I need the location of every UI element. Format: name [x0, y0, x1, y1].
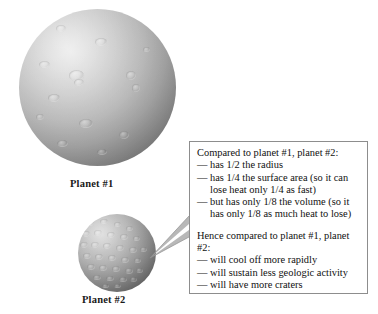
crater — [79, 119, 93, 128]
crater — [99, 265, 107, 271]
crater — [108, 255, 116, 261]
planet-2-crater-layer — [78, 214, 156, 292]
planet-2-label: Planet #2 — [82, 294, 126, 305]
crater — [93, 275, 101, 280]
crater — [87, 264, 95, 270]
crater — [114, 284, 121, 288]
planet-1-sphere — [19, 9, 176, 166]
crater — [87, 221, 94, 226]
callout-paragraph-2: Hence compared to planet #1, planet #2: … — [197, 230, 361, 291]
crater — [126, 71, 136, 80]
crater — [126, 226, 133, 231]
planet-1-crater-layer — [19, 9, 176, 166]
crater — [129, 247, 137, 253]
crater — [134, 258, 141, 263]
crater — [114, 222, 121, 227]
crater — [100, 219, 108, 224]
crater — [120, 234, 128, 240]
crater — [136, 268, 143, 273]
crater — [94, 230, 102, 236]
callout-bullet: — but has only 1/8 the volume (so it has… — [197, 196, 361, 221]
crater — [95, 38, 107, 46]
crater — [103, 243, 111, 249]
crater — [56, 25, 66, 32]
crater — [133, 236, 140, 241]
crater — [91, 242, 99, 248]
crater — [48, 94, 60, 102]
callout-box: Compared to planet #1, planet #2: — has … — [189, 141, 368, 294]
crater — [95, 254, 103, 260]
callout-paragraph-1: Compared to planet #1, planet #2: — has … — [197, 147, 361, 221]
crater — [119, 131, 129, 139]
callout-bullet: — has 1/4 the surface area (so it can lo… — [197, 172, 361, 197]
crater — [130, 277, 137, 282]
crater — [121, 257, 129, 263]
crater — [119, 277, 127, 282]
callout-bullet: — will cool off more rapidly — [197, 254, 361, 266]
callout-bullet: — will have more craters — [197, 279, 361, 291]
crater — [36, 114, 44, 120]
crater — [69, 70, 84, 81]
planet-1-label: Planet #1 — [70, 178, 114, 189]
crater — [125, 268, 133, 274]
callout-bullet: — will sustain less geologic activity — [197, 267, 361, 279]
figure-canvas: Planet #1 Planet #2 Compared to planet #… — [0, 0, 378, 314]
crater — [116, 245, 124, 251]
crater — [80, 242, 88, 248]
crater — [132, 84, 140, 92]
crater — [82, 231, 90, 237]
planet-2-sphere — [78, 214, 156, 292]
callout-bullets-1: — has 1/2 the radius — has 1/4 the surfa… — [197, 159, 361, 220]
crater — [107, 232, 115, 238]
callout-bullets-2: — will cool off more rapidly — will sust… — [197, 254, 361, 291]
callout-lead-2: Hence compared to planet #1, planet #2: — [197, 230, 361, 255]
crater — [97, 149, 107, 155]
callout-lead-1: Compared to planet #1, planet #2: — [197, 147, 361, 159]
crater — [140, 247, 147, 252]
crater — [57, 140, 68, 147]
crater — [143, 47, 150, 52]
crater — [102, 284, 109, 288]
crater — [112, 266, 120, 272]
crater — [83, 253, 91, 259]
crater — [39, 61, 50, 68]
callout-bullet: — has 1/2 the radius — [197, 159, 361, 171]
crater — [106, 276, 114, 281]
crater — [74, 79, 84, 86]
